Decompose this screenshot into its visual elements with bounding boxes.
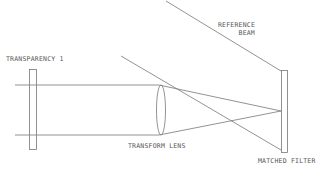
transparency-plate	[30, 70, 37, 150]
diagonal-beam	[121, 56, 281, 150]
transform-lens-label: TRANSFORM LENS	[128, 142, 186, 150]
reference-beam-label-line1: REFERENCE	[215, 21, 255, 29]
transparency-label: TRANSPARENCY 1	[6, 55, 64, 63]
optical-correlator-diagram: TRANSPARENCY 1 REFERENCE BEAM TRANSFORM …	[0, 0, 330, 172]
matched-filter-label: MATCHED FILTER	[258, 157, 316, 165]
transform-lens	[157, 85, 166, 135]
reference-beam-label-line2: BEAM	[215, 29, 255, 37]
matched-filter-plate	[282, 71, 288, 153]
